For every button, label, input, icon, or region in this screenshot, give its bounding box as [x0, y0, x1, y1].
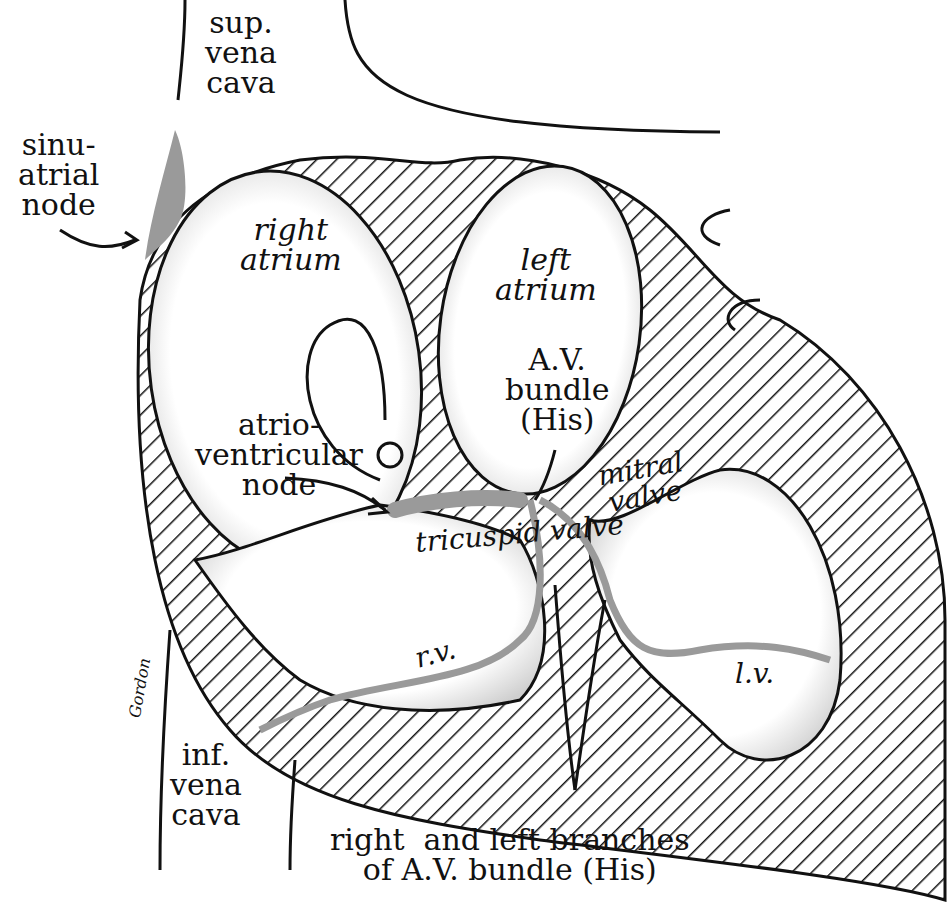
- label-left-ventricle: l.v.: [735, 660, 774, 688]
- sup-vena-cava-left-wall: [178, 0, 185, 100]
- heart-conduction-diagram: sup. vena cava sinu- atrial node right a…: [0, 0, 950, 904]
- label-mitral-valve: mitral valve: [596, 448, 690, 518]
- heart-illustration: [0, 0, 950, 904]
- label-sup-vena-cava: sup. vena cava: [205, 8, 277, 98]
- vessel-stub-upper: [702, 210, 730, 245]
- label-av-bundle: A.V. bundle (His): [505, 345, 609, 435]
- inf-vena-cava-left-wall: [160, 630, 170, 870]
- label-sinuatrial-node: sinu- atrial node: [18, 130, 99, 220]
- label-bundle-branches: right and left branches of A.V. bundle (…: [330, 825, 690, 885]
- label-inf-vena-cava: inf. vena cava: [170, 740, 242, 830]
- label-right-atrium: right atrium: [240, 215, 342, 275]
- label-atrioventricular-node: atrio- ventricular node: [195, 410, 363, 500]
- sup-vena-cava-right-wall: [345, 0, 720, 132]
- sa-node-arrow: [60, 230, 135, 247]
- label-left-atrium: left atrium: [495, 245, 597, 305]
